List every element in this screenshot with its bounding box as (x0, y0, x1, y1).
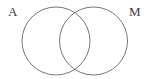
set-label-m: M (129, 5, 141, 18)
venn-diagram: A M (0, 0, 149, 79)
venn-diagram-canvas (0, 0, 149, 79)
set-circle-right (60, 7, 128, 75)
set-label-a: A (8, 5, 17, 18)
set-circle-left (22, 7, 90, 75)
